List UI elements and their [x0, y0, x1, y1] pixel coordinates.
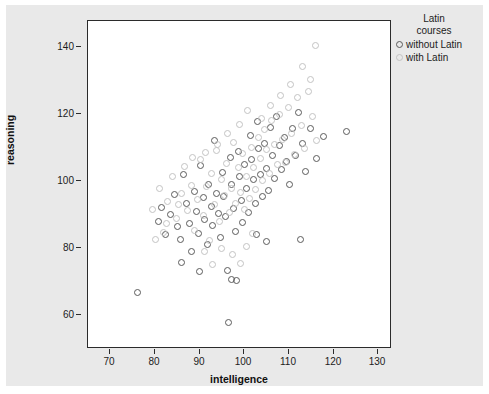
scatter-point: [263, 238, 270, 245]
scatter-point: [309, 113, 316, 120]
scatter-point: [305, 88, 312, 95]
scatter-point: [152, 236, 159, 243]
scatter-point: [203, 183, 210, 190]
scatter-point: [313, 155, 320, 162]
scatter-point: [236, 121, 243, 128]
scatter-point: [248, 144, 255, 151]
scatter-point: [265, 187, 272, 194]
scatter-point: [196, 268, 203, 275]
scatter-point: [224, 130, 231, 137]
scatter-point: [313, 137, 320, 144]
scatter-point: [225, 319, 232, 326]
scatter-point: [277, 92, 284, 99]
y-tick-label: 100: [34, 175, 74, 186]
scatter-point: [299, 63, 306, 70]
scatter-point: [191, 188, 198, 195]
scatter-point: [193, 208, 200, 215]
chart-page: 140 120 100 80 60 reasoning 70 80 90 100…: [0, 0, 489, 394]
scatter-point: [211, 201, 218, 208]
x-tick-label: 130: [357, 356, 397, 367]
legend-item-label: with Latin: [406, 52, 448, 63]
scatter-point: [250, 164, 257, 171]
x-tick-label: 120: [313, 356, 353, 367]
scatter-point: [291, 151, 298, 158]
legend-item-with-latin[interactable]: with Latin: [396, 51, 482, 63]
scatter-point: [215, 210, 222, 217]
x-tick: [333, 349, 334, 354]
scatter-point: [302, 168, 309, 175]
scatter-point: [213, 190, 220, 197]
scatter-point: [285, 104, 292, 111]
scatter-point: [188, 248, 195, 255]
scatter-point: [191, 227, 198, 234]
scatter-point: [246, 195, 253, 202]
scatter-point: [298, 122, 305, 129]
scatter-point: [276, 111, 283, 118]
scatter-point: [244, 107, 251, 114]
scatter-point: [268, 117, 275, 124]
x-tick-label: 100: [223, 356, 263, 367]
scatter-point: [312, 42, 319, 49]
scatter-point: [184, 207, 191, 214]
scatter-point: [218, 176, 225, 183]
scatter-point: [194, 196, 201, 203]
x-tick: [154, 349, 155, 354]
scatter-point: [267, 102, 274, 109]
scatter-point: [177, 236, 184, 243]
legend-item-label: without Latin: [406, 39, 462, 50]
scatter-point: [237, 260, 244, 267]
scatter-point: [279, 136, 286, 143]
scatter-point: [239, 219, 246, 226]
scatter-point: [232, 228, 239, 235]
scatter-point: [216, 218, 223, 225]
scatter-point: [186, 220, 193, 227]
scatter-point: [236, 173, 243, 180]
x-tick-label: 110: [268, 356, 308, 367]
scatter-point: [173, 215, 180, 222]
scatter-point: [149, 206, 156, 213]
scatter-point: [218, 245, 225, 252]
scatter-point: [235, 164, 242, 171]
scatter-point: [158, 204, 165, 211]
scatter-point: [224, 267, 231, 274]
scatter-point: [271, 175, 278, 182]
scatter-point: [230, 139, 237, 146]
scatter-point: [243, 185, 250, 192]
scatter-point: [181, 163, 188, 170]
scatter-point: [223, 160, 230, 167]
x-tick-label: 90: [179, 356, 219, 367]
scatter-point: [286, 181, 293, 188]
scatter-point: [178, 259, 185, 266]
scatter-point: [301, 145, 308, 152]
scatter-point: [197, 156, 204, 163]
scatter-point: [134, 289, 141, 296]
scatter-point: [201, 248, 208, 255]
scatter-point: [164, 198, 171, 205]
scatter-point: [232, 200, 239, 207]
scatter-point: [250, 176, 257, 183]
scatter-point: [239, 150, 246, 157]
scatter-point: [229, 251, 236, 258]
y-tick: [76, 247, 81, 248]
scatter-point: [258, 115, 265, 122]
legend-marker-circle-icon: [396, 41, 403, 48]
scatter-point: [287, 81, 294, 88]
scatter-point: [307, 125, 314, 132]
legend-item-without-latin[interactable]: without Latin: [396, 38, 482, 50]
legend-title: Latin courses: [400, 13, 468, 37]
scatter-point: [307, 76, 314, 83]
scatter-point: [237, 189, 244, 196]
scatter-point: [175, 201, 182, 208]
scatter-point: [249, 230, 256, 237]
scatter-point: [269, 152, 276, 159]
scatter-point: [343, 128, 350, 135]
x-tick-label: 70: [89, 356, 129, 367]
x-tick: [199, 349, 200, 354]
scatter-point: [188, 182, 195, 189]
scatter-point: [202, 149, 209, 156]
scatter-point: [238, 197, 245, 204]
scatter-point: [243, 243, 250, 250]
scatter-point: [295, 109, 302, 116]
legend-title-line2: courses: [400, 25, 468, 37]
scatter-point: [155, 218, 162, 225]
